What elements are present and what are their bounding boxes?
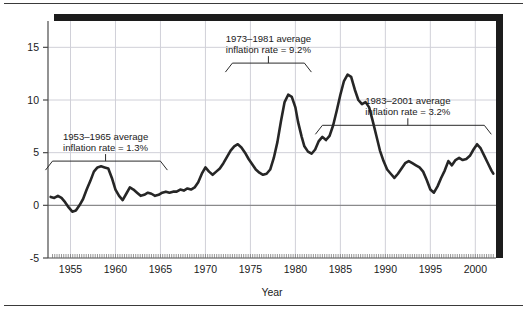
x-axis-title: Year [261,286,283,298]
x-tick-label: 1955 [59,263,83,275]
x-tick-label: 1970 [194,263,218,275]
x-tick-label: 1975 [239,263,263,275]
x-tick-label: 1990 [374,263,398,275]
figure-container: -5051015 1955196019651970197519801985199… [0,0,527,318]
figure-bottom-rule [4,305,523,306]
y-tick-label: 15 [27,41,39,53]
x-tick-label: 1980 [284,263,308,275]
annotation-line-1: 1973–1981 average [226,33,311,44]
y-tick-label: 5 [33,146,39,158]
y-axis-ticks [43,47,48,258]
annotation-line-1: 1953–1965 average [63,131,148,142]
chart-area: -5051015 1955196019651970197519801985199… [0,0,527,300]
annotation-line-1: 1983–2001 average [365,95,450,106]
x-axis-tick-labels: 1955196019651970197519801985199019952000 [59,263,487,275]
x-tick-label: 1985 [329,263,353,275]
y-axis-tick-labels: -5051015 [27,41,39,264]
x-tick-label: 1995 [419,263,443,275]
x-tick-label: 2000 [464,263,488,275]
annotation-line-2: inflation rate = 3.2% [365,106,451,117]
x-tick-label: 1965 [149,263,173,275]
x-tick-label: 1960 [104,263,128,275]
annotation-line-2: inflation rate = 1.3% [63,142,149,153]
annotation-line-2: inflation rate = 9.2% [226,44,312,55]
y-tick-label: 0 [33,199,39,211]
inflation-line-chart: -5051015 1955196019651970197519801985199… [0,0,527,300]
y-tick-label: 10 [27,94,39,106]
y-tick-label: -5 [30,252,39,264]
